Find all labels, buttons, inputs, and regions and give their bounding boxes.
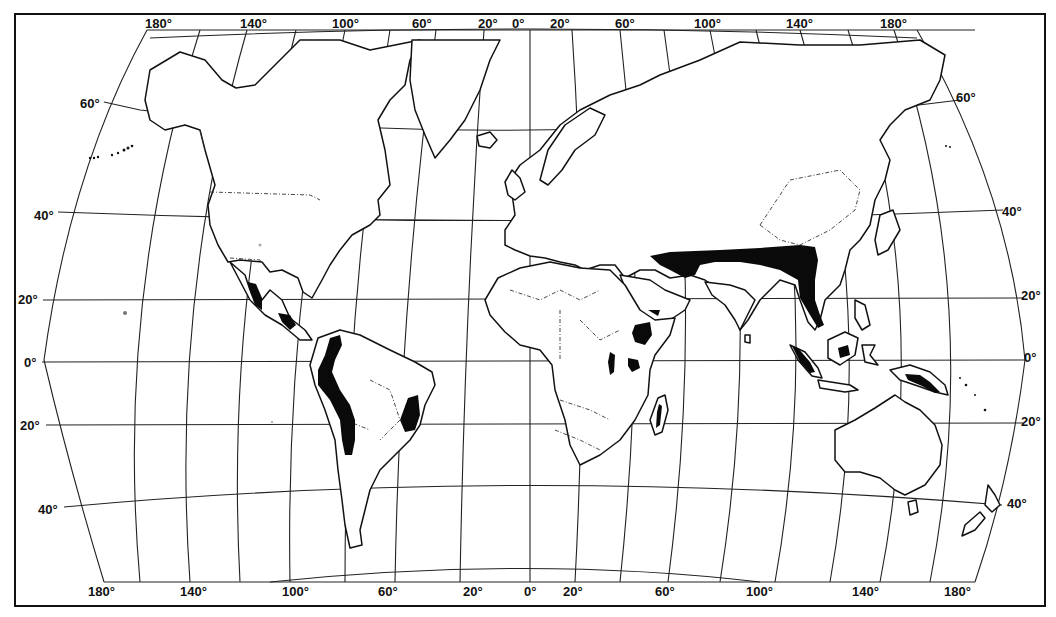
world-map: [0, 0, 1056, 617]
coastlines: [145, 40, 1000, 548]
lat-label-left: 20°: [20, 418, 40, 433]
lon-label-top: 60°: [412, 16, 432, 31]
lon-label-bottom: 60°: [655, 584, 675, 599]
lon-label-top: 100°: [332, 16, 359, 31]
lat-label-left: 60°: [80, 96, 100, 111]
lon-label-bottom: 100°: [746, 584, 773, 599]
lon-label-bottom: 60°: [378, 584, 398, 599]
lat-label-right: 40°: [1002, 204, 1022, 219]
lat-label-left: 40°: [38, 502, 58, 517]
lat-label-left: 40°: [34, 208, 54, 223]
lat-label-right: 40°: [1007, 496, 1027, 511]
new-zealand-south: [962, 512, 985, 536]
new-zealand-north: [985, 485, 1000, 512]
lon-label-bottom: 180°: [944, 584, 971, 599]
lat-label-left: 0°: [24, 355, 36, 370]
australia: [835, 395, 942, 495]
lon-label-top: 180°: [145, 16, 172, 31]
lon-label-top: 20°: [478, 16, 498, 31]
lon-label-top: 140°: [240, 16, 267, 31]
lon-label-bottom: 140°: [852, 584, 879, 599]
lat-label-left: 20°: [18, 292, 38, 307]
lon-label-bottom: 0°: [524, 584, 536, 599]
lon-label-top: 180°: [880, 16, 907, 31]
lon-label-bottom: 20°: [463, 584, 483, 599]
lon-label-top: 0°: [512, 16, 524, 31]
lon-label-top: 140°: [786, 16, 813, 31]
lat-label-right: 20°: [1021, 288, 1041, 303]
lon-label-top: 60°: [615, 16, 635, 31]
lon-label-bottom: 20°: [563, 584, 583, 599]
sulawesi: [862, 345, 878, 365]
lat-label-right: 0°: [1024, 350, 1036, 365]
lat-label-right: 60°: [956, 90, 976, 105]
lon-label-bottom: 180°: [88, 584, 115, 599]
north-america: [145, 40, 420, 298]
java: [818, 380, 858, 392]
sri-lanka: [745, 335, 750, 343]
lon-label-top: 100°: [694, 16, 721, 31]
lon-label-bottom: 100°: [282, 584, 309, 599]
lon-label-top: 20°: [550, 16, 570, 31]
japan: [875, 210, 900, 255]
philippines: [855, 300, 870, 330]
tasmania: [908, 500, 918, 515]
lon-label-bottom: 140°: [180, 584, 207, 599]
iceland: [477, 132, 497, 148]
lat-label-right: 20°: [1021, 414, 1041, 429]
